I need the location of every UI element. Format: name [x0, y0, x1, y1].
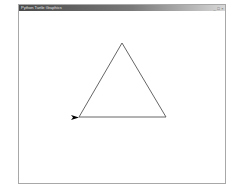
triangle-drawing: [79, 43, 166, 117]
turtle-arrow-icon: [71, 115, 79, 120]
drawing-layer: [0, 0, 238, 191]
